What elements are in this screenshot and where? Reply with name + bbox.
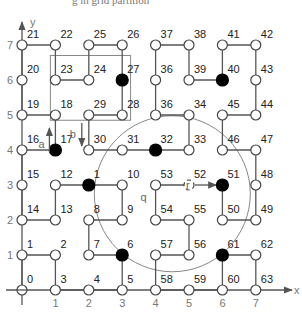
node-label: 2 — [60, 238, 66, 250]
node-label: 63 — [261, 273, 273, 285]
grid-node — [216, 249, 228, 261]
node-label: 38 — [194, 28, 206, 40]
node-label: 46 — [227, 133, 239, 145]
grid-node — [150, 144, 162, 156]
grid-node — [17, 40, 27, 50]
grid-node — [184, 250, 194, 260]
grid-node — [50, 250, 60, 260]
grid-node — [184, 110, 194, 120]
node-label: 60 — [227, 273, 239, 285]
node-label: 61 — [227, 238, 239, 250]
grid-node — [184, 75, 194, 85]
grid-node — [251, 285, 261, 295]
node-label: 55 — [194, 203, 206, 215]
node-label: 51 — [227, 168, 239, 180]
grid-node — [17, 250, 27, 260]
grid-node — [217, 40, 227, 50]
grid-node — [151, 215, 161, 225]
grid-node — [84, 75, 94, 85]
grid-node — [84, 145, 94, 155]
node-label: 33 — [194, 133, 206, 145]
x-tick-label: 1 — [52, 297, 58, 309]
node-label: 13 — [60, 203, 72, 215]
node-label: 28 — [127, 98, 139, 110]
grid-node — [50, 40, 60, 50]
node-label: 7 — [94, 238, 100, 250]
grid-node — [251, 180, 261, 190]
grid-node — [117, 145, 127, 155]
grid-node — [117, 180, 127, 190]
label-a: a — [38, 138, 45, 150]
grid-node — [184, 40, 194, 50]
node-label: 8 — [94, 203, 100, 215]
x-axis-label: x — [294, 284, 300, 296]
grid-node — [84, 285, 94, 295]
grid-node — [216, 179, 228, 191]
x-tick-label: 2 — [86, 297, 92, 309]
grid-node — [251, 215, 261, 225]
node-label: 6 — [127, 238, 133, 250]
node-label: 22 — [60, 28, 72, 40]
grid-node — [217, 110, 227, 120]
node-label: 47 — [261, 133, 273, 145]
grid-path-diagram: yx12345671234567 01234567891011213141516… — [0, 0, 302, 315]
y-tick-label: 7 — [7, 39, 13, 51]
grid-node — [184, 145, 194, 155]
node-label: 29 — [94, 98, 106, 110]
node-label: 9 — [127, 203, 133, 215]
node-label: 59 — [194, 273, 206, 285]
node-label: 37 — [161, 28, 173, 40]
grid-node — [50, 180, 60, 190]
node-label: 45 — [227, 98, 239, 110]
node-label: 41 — [227, 28, 239, 40]
node-label: 36 — [161, 98, 173, 110]
grid-node — [151, 40, 161, 50]
node-label: 14 — [27, 203, 39, 215]
grid-node — [251, 145, 261, 155]
x-tick-label: 5 — [186, 297, 192, 309]
node-label: 54 — [161, 203, 173, 215]
region-highlights — [50, 56, 250, 272]
node-label: 36 — [161, 63, 173, 75]
node-label: 42 — [261, 28, 273, 40]
x-tick-label: 7 — [253, 297, 259, 309]
node-label: 23 — [60, 63, 72, 75]
node-label: 52 — [194, 168, 206, 180]
grid-node — [17, 145, 27, 155]
grid-node — [117, 285, 127, 295]
node-label: 43 — [261, 63, 273, 75]
node-label: 34 — [194, 98, 206, 110]
grid-node — [217, 215, 227, 225]
node-label: 27 — [127, 63, 139, 75]
node-label: 39 — [194, 63, 206, 75]
grid-node — [151, 110, 161, 120]
grid-node — [151, 180, 161, 190]
node-label: 1 — [27, 238, 33, 250]
node-label: 32 — [161, 133, 173, 145]
node-label: 25 — [94, 28, 106, 40]
grid-node — [117, 40, 127, 50]
grid-node — [84, 40, 94, 50]
x-tick-label: 4 — [153, 297, 159, 309]
node-label: 49 — [261, 203, 273, 215]
label-b: b — [70, 128, 76, 140]
node-label: 18 — [60, 98, 72, 110]
y-tick-label: 3 — [7, 179, 13, 191]
node-label: 26 — [127, 28, 139, 40]
label-q: q — [141, 191, 147, 203]
grid-node — [84, 250, 94, 260]
node-label: 62 — [261, 238, 273, 250]
node-label: 31 — [127, 133, 139, 145]
grid-node — [49, 144, 61, 156]
node-label: 10 — [127, 168, 139, 180]
grid-node — [251, 40, 261, 50]
grid-node — [17, 75, 27, 85]
node-label: 12 — [60, 168, 72, 180]
grid-node — [151, 75, 161, 85]
node-label: 15 — [27, 168, 39, 180]
node-label: 5 — [127, 273, 133, 285]
node-label: 21 — [27, 28, 39, 40]
y-tick-label: 2 — [7, 214, 13, 226]
x-tick-label: 6 — [219, 297, 225, 309]
grid-node — [217, 145, 227, 155]
